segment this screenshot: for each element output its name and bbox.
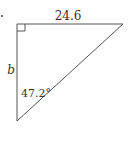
angle-label: 47.2° xyxy=(21,87,51,100)
bullet-dot xyxy=(1,15,3,17)
triangle-diagram: 24.6 b 47.2° xyxy=(0,0,133,145)
triangle-shape xyxy=(17,24,123,121)
right-angle-marker xyxy=(17,24,25,31)
top-side-label: 24.6 xyxy=(55,9,82,23)
left-side-label: b xyxy=(7,63,15,77)
